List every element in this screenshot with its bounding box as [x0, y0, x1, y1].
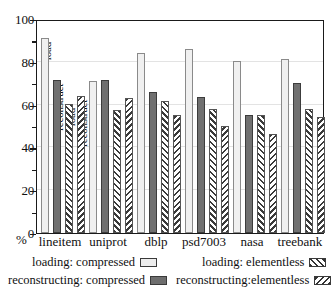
bar [89, 81, 97, 233]
legend-label: loading: compressed [32, 256, 135, 269]
legend-item-reconstructing-compressed: reconstructing: compressed [8, 272, 167, 289]
legend-label: reconstructing: compressed [8, 274, 145, 287]
plot-area: loadreconstructloadreconstruct [36, 20, 324, 234]
bar [317, 117, 325, 233]
bar [125, 98, 133, 233]
bar-group [233, 21, 277, 233]
y-axis-unit-label: % [16, 233, 27, 246]
legend-item-loading-compressed: loading: compressed [32, 254, 157, 271]
bar [113, 110, 121, 233]
bar [149, 92, 157, 233]
bar-group [281, 21, 325, 233]
bar [221, 126, 229, 233]
legend-swatch-hatch-backslash-icon [309, 258, 326, 267]
bar [209, 109, 217, 233]
legend-swatch-hatch-slash-icon [314, 276, 331, 285]
bar [245, 115, 253, 233]
bar [197, 97, 205, 233]
legend-swatch-solid-light-icon [140, 258, 157, 267]
legend-label: reconstructing:elementless [176, 274, 309, 287]
bar [281, 59, 289, 233]
legend-item-loading-elementless: loading: elementless [202, 254, 326, 271]
bar [137, 53, 145, 233]
bar [257, 115, 265, 233]
bar [53, 80, 61, 233]
bar-group [41, 21, 85, 233]
legend-label: loading: elementless [202, 256, 304, 269]
bar [305, 109, 313, 233]
bar [269, 134, 277, 234]
bar [185, 49, 193, 233]
x-axis-tick-label: treebank [270, 235, 330, 249]
legend-item-reconstructing-elementless: reconstructing:elementless [176, 272, 331, 289]
legend: loading: compressed loading: elementless… [0, 254, 334, 294]
bar-group [89, 21, 133, 233]
bar [65, 104, 73, 233]
bar [233, 61, 241, 233]
bar [77, 96, 85, 233]
bar [161, 101, 169, 233]
bar-group [185, 21, 229, 233]
bar [173, 115, 181, 233]
bar-group [137, 21, 181, 233]
bar [101, 80, 109, 233]
bar [293, 83, 301, 233]
legend-swatch-solid-dark-icon [150, 276, 167, 285]
bar-chart: 020406080100 % loadreconstructloadrecons… [0, 0, 334, 298]
bar [41, 38, 49, 233]
